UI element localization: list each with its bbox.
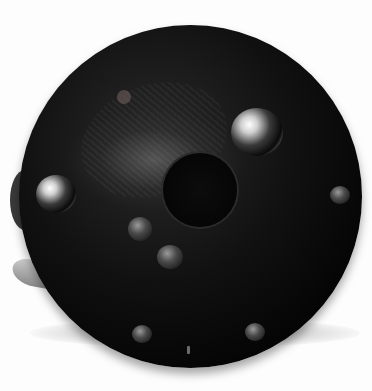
bottom-pin	[187, 346, 190, 354]
screw-3	[330, 186, 350, 204]
photo-scene	[0, 0, 372, 391]
center-hub	[163, 153, 237, 227]
screw-5	[245, 323, 265, 341]
screw-2	[157, 245, 183, 269]
screw-1	[128, 217, 152, 241]
jewel-left	[36, 175, 76, 213]
screw-4	[132, 325, 152, 343]
jewel-top-right	[231, 108, 283, 156]
surface-spot	[117, 90, 131, 104]
